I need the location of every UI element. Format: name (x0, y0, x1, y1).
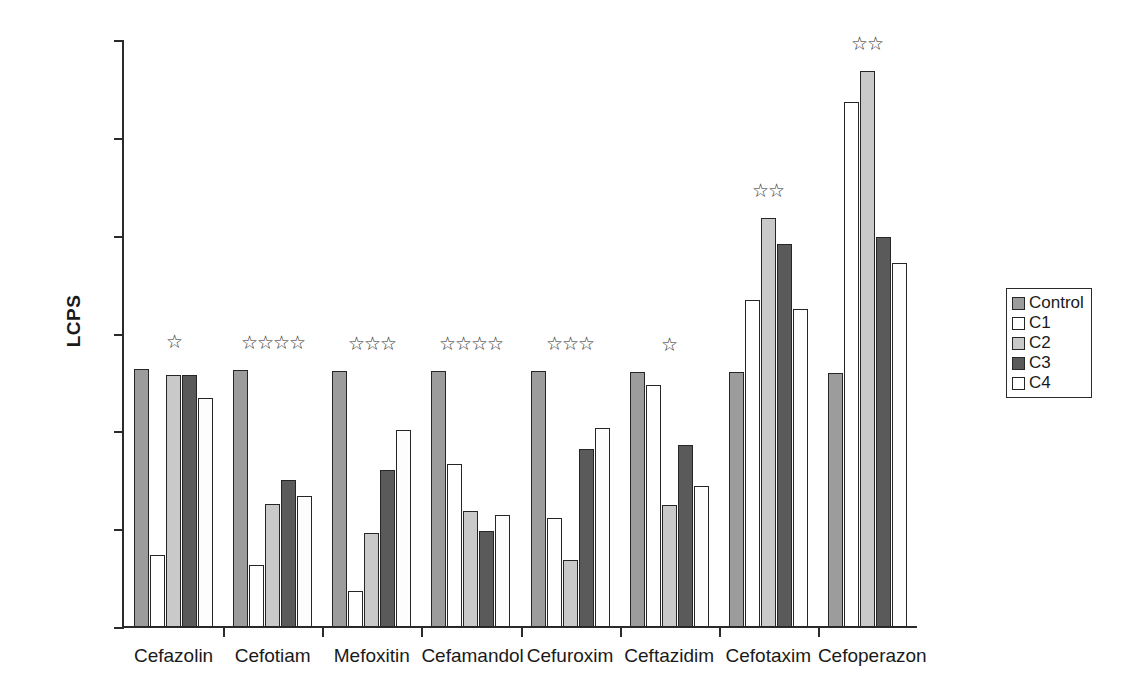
bar-group-bars (719, 40, 818, 627)
bar (198, 398, 213, 627)
bar (662, 505, 677, 627)
x-axis-label: Cefamandol (421, 645, 520, 667)
legend-label: C1 (1029, 313, 1051, 333)
x-axis-separator (421, 628, 423, 637)
bar (844, 102, 859, 627)
x-axis-label: Cefuroxim (521, 645, 620, 667)
bar (761, 218, 776, 627)
legend-swatch-icon (1012, 377, 1025, 390)
significance-stars: ☆☆ (818, 34, 917, 53)
bar (233, 370, 248, 627)
x-axis-label: Cefotiam (223, 645, 322, 667)
bar (182, 375, 197, 627)
bar (876, 237, 891, 627)
bar (447, 464, 462, 627)
x-axis-separator (223, 628, 225, 637)
legend-label: Control (1029, 293, 1084, 313)
bar (332, 371, 347, 627)
y-tick-mark (114, 236, 124, 238)
x-axis-label: Ceftazidim (620, 645, 719, 667)
bar (694, 486, 709, 627)
bar (777, 244, 792, 627)
bar (531, 371, 546, 627)
bar (463, 511, 478, 627)
legend-label: C4 (1029, 373, 1051, 393)
significance-stars: ☆☆ (719, 181, 818, 200)
significance-stars: ☆ (620, 335, 719, 354)
bar (892, 263, 907, 627)
bar (860, 71, 875, 627)
x-axis-separator (719, 628, 721, 637)
legend-item-c1: C1 (1012, 313, 1084, 333)
significance-stars: ☆☆☆☆ (223, 333, 322, 352)
bar-group: ☆ (620, 40, 719, 627)
bar-chart: LCPS 0100020003000400050006000 ☆☆☆☆☆☆☆☆☆… (0, 0, 1131, 699)
bar (678, 445, 693, 627)
bar (793, 309, 808, 627)
significance-stars: ☆☆☆ (322, 334, 421, 353)
legend-swatch-icon (1012, 317, 1025, 330)
legend-item-c2: C2 (1012, 333, 1084, 353)
bar (745, 300, 760, 627)
y-tick-mark (114, 431, 124, 433)
bar (547, 518, 562, 627)
bar (563, 560, 578, 627)
bar (297, 496, 312, 627)
significance-stars: ☆☆☆ (521, 334, 620, 353)
bar-group: ☆☆☆ (322, 40, 421, 627)
x-axis-separator (322, 628, 324, 637)
legend-item-control: Control (1012, 293, 1084, 313)
significance-stars: ☆☆☆☆ (421, 334, 520, 353)
bar-group: ☆☆☆ (521, 40, 620, 627)
bar (630, 372, 645, 627)
x-axis-label: Cefoperazon (818, 645, 917, 667)
x-axis-label: Cefotaxim (719, 645, 818, 667)
bar (249, 565, 264, 627)
bar (828, 373, 843, 627)
x-axis-separator (620, 628, 622, 637)
bar (595, 428, 610, 627)
bar (396, 430, 411, 627)
legend-swatch-icon (1012, 357, 1025, 370)
bar (134, 369, 149, 627)
bar (150, 555, 165, 627)
significance-stars: ☆ (124, 332, 223, 351)
y-tick-mark (114, 138, 124, 140)
bar (729, 372, 744, 627)
plot-area: ☆☆☆☆☆☆☆☆☆☆☆☆☆☆☆☆☆☆☆☆ (124, 40, 917, 627)
bar (646, 385, 661, 627)
legend-swatch-icon (1012, 337, 1025, 350)
bar-group-bars (818, 40, 917, 627)
bar-group: ☆ (124, 40, 223, 627)
y-tick-mark (114, 334, 124, 336)
bar-group: ☆☆ (719, 40, 818, 627)
x-axis-separator (521, 628, 523, 637)
bar-group: ☆☆☆☆ (223, 40, 322, 627)
y-tick-mark (114, 40, 124, 42)
bar (495, 515, 510, 628)
bar (265, 504, 280, 627)
x-axis-separator (818, 628, 820, 637)
x-axis-label: Mefoxitin (322, 645, 421, 667)
legend-swatch-icon (1012, 297, 1025, 310)
bar (479, 531, 494, 627)
bar (579, 449, 594, 627)
x-axis-label: Cefazolin (124, 645, 223, 667)
legend-item-c4: C4 (1012, 373, 1084, 393)
legend-item-c3: C3 (1012, 353, 1084, 373)
bar-group: ☆☆☆☆ (421, 40, 520, 627)
legend: ControlC1C2C3C4 (1006, 288, 1092, 398)
bar (281, 480, 296, 627)
bar (348, 591, 363, 627)
bar (166, 375, 181, 627)
legend-label: C2 (1029, 333, 1051, 353)
bar (431, 371, 446, 627)
y-axis-title: LCPS (63, 261, 85, 381)
y-tick-mark (114, 529, 124, 531)
bar (380, 470, 395, 628)
bar (364, 533, 379, 627)
bar-group: ☆☆ (818, 40, 917, 627)
legend-label: C3 (1029, 353, 1051, 373)
